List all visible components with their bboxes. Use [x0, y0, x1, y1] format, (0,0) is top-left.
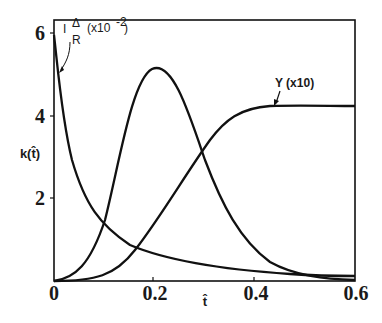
- svg-text:): ): [124, 21, 128, 35]
- x-tick-0.6: 0.6: [344, 282, 369, 304]
- svg-text:R: R: [72, 33, 81, 47]
- svg-text:(x10: (x10: [87, 21, 111, 35]
- series-y-curve: [54, 106, 355, 281]
- annotation-y: Y (x10): [274, 76, 314, 106]
- x-tick-0: 0: [49, 282, 59, 304]
- svg-text:Δ: Δ: [72, 16, 80, 30]
- x-axis-label: t̂: [202, 294, 208, 309]
- y-tick-6: 6: [35, 22, 45, 44]
- y-axis-label: k(t̂): [20, 146, 40, 161]
- y-tick-4: 4: [35, 105, 45, 127]
- x-tick-0.4: 0.4: [244, 282, 269, 304]
- y-tick-2: 2: [35, 187, 45, 209]
- line-chart: 6 4 2 0 0.2 0.4 0.6 t̂ k(t̂) I Δ R (x10 …: [0, 0, 382, 323]
- x-tick-0.2: 0.2: [143, 282, 168, 304]
- annotation-ir: I Δ R (x10 -2 ): [59, 15, 128, 73]
- svg-text:Y (x10): Y (x10): [275, 76, 314, 90]
- plot-frame: [54, 20, 355, 281]
- series-peak-curve: [54, 68, 355, 281]
- svg-text:I: I: [63, 22, 66, 36]
